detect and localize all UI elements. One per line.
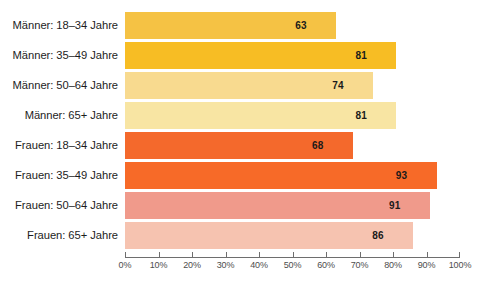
x-axis-tick-mark bbox=[159, 252, 160, 257]
bar-category-label: Männer: 65+ Jahre bbox=[0, 102, 118, 129]
x-axis-tick-mark bbox=[360, 252, 361, 257]
chart-plot-area: Männer: 18–34 Jahre63Männer: 35–49 Jahre… bbox=[0, 12, 485, 252]
x-axis-tick-mark bbox=[326, 252, 327, 257]
bar-value-label: 63 bbox=[288, 12, 314, 39]
bar-category-label: Männer: 18–34 Jahre bbox=[0, 12, 118, 39]
bar-row: Männer: 65+ Jahre81 bbox=[0, 102, 485, 129]
bar-category-label: Frauen: 50–64 Jahre bbox=[0, 192, 118, 219]
x-axis-tick-mark bbox=[293, 252, 294, 257]
x-axis-tick-mark bbox=[192, 252, 193, 257]
bar-row: Männer: 35–49 Jahre81 bbox=[0, 42, 485, 69]
bar-chart: Männer: 18–34 Jahre63Männer: 35–49 Jahre… bbox=[0, 0, 485, 283]
bar-value-label: 86 bbox=[365, 222, 391, 249]
x-axis-tick-mark bbox=[226, 252, 227, 257]
bar-row: Männer: 50–64 Jahre74 bbox=[0, 72, 485, 99]
x-axis-line bbox=[125, 257, 460, 258]
bar-row: Frauen: 35–49 Jahre93 bbox=[0, 162, 485, 189]
bar-category-label: Frauen: 65+ Jahre bbox=[0, 222, 118, 249]
x-axis-tick-mark bbox=[393, 252, 394, 257]
bar-category-label: Frauen: 35–49 Jahre bbox=[0, 162, 118, 189]
x-axis-tick-mark bbox=[427, 252, 428, 257]
chart-title bbox=[0, 0, 485, 3]
bar-row: Frauen: 50–64 Jahre91 bbox=[0, 192, 485, 219]
x-axis-tick-mark bbox=[125, 252, 126, 257]
x-axis-tick-mark bbox=[259, 252, 260, 257]
bar-category-label: Männer: 35–49 Jahre bbox=[0, 42, 118, 69]
bar-value-label: 74 bbox=[325, 72, 351, 99]
bar-row: Frauen: 18–34 Jahre68 bbox=[0, 132, 485, 159]
x-axis: 0%10%20%30%40%50%60%70%80%90%100% bbox=[125, 252, 460, 283]
bar-category-label: Frauen: 18–34 Jahre bbox=[0, 132, 118, 159]
bar-value-label: 81 bbox=[348, 102, 374, 129]
bar-row: Männer: 18–34 Jahre63 bbox=[0, 12, 485, 39]
bar-value-label: 68 bbox=[305, 132, 331, 159]
x-axis-tick-label: 100% bbox=[440, 260, 480, 270]
bar-category-label: Männer: 50–64 Jahre bbox=[0, 72, 118, 99]
x-axis-tick-mark bbox=[459, 252, 460, 257]
bar-value-label: 81 bbox=[348, 42, 374, 69]
bar-row: Frauen: 65+ Jahre86 bbox=[0, 222, 485, 249]
bar-value-label: 91 bbox=[382, 192, 408, 219]
bar-value-label: 93 bbox=[389, 162, 415, 189]
